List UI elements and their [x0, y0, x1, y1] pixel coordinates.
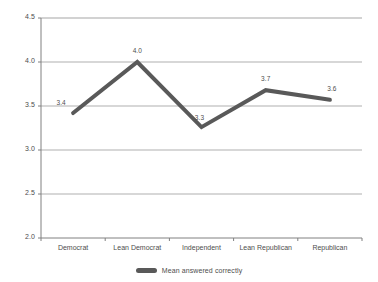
data-point-label: 3.4: [56, 99, 65, 106]
plot-area: [0, 0, 378, 282]
y-axis-tick-label: 2.5: [6, 189, 35, 196]
y-axis-tick-label: 3.5: [6, 101, 35, 108]
data-point-label: 3.6: [327, 85, 336, 92]
data-point-label: 3.7: [261, 75, 270, 82]
y-axis-tick-label: 2.0: [6, 233, 35, 240]
y-axis-tick-label: 4.5: [6, 13, 35, 20]
line-chart: 4.54.03.53.02.52.0 DemocratLean Democrat…: [0, 0, 378, 282]
legend-label: Mean answered correctly: [162, 267, 243, 274]
data-point-label: 4.0: [133, 47, 142, 54]
chart-legend: Mean answered correctly: [0, 267, 378, 274]
data-point-label: 3.3: [195, 114, 204, 121]
x-axis-tick-label: Democrat: [58, 244, 88, 251]
y-axis-tick-label: 4.0: [6, 57, 35, 64]
x-axis-tick-label: Independent: [182, 244, 221, 251]
x-axis-tick-label: Lean Republican: [239, 244, 292, 251]
x-axis-tick-label: Republican: [312, 244, 347, 251]
legend-swatch-mean-answered-correctly: [136, 268, 157, 273]
x-axis-tick-label: Lean Democrat: [113, 244, 161, 251]
y-axis-tick-label: 3.0: [6, 145, 35, 152]
